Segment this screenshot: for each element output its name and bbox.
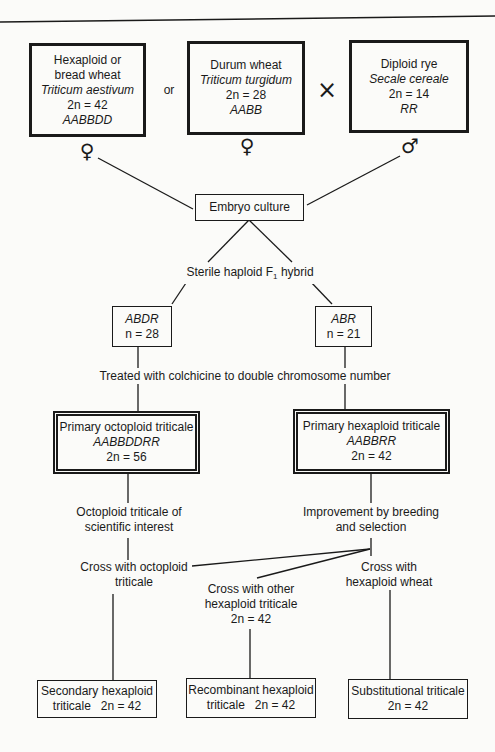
cross-wheat-line2: hexaploid wheat <box>335 575 443 590</box>
cross-octoploid-line1: Cross with octoploid <box>75 560 193 575</box>
female-symbol-icon: ♀ <box>237 135 257 157</box>
octoploid-interest-line2: scientific interest <box>68 520 190 535</box>
haploid-box-abr: ABR n = 21 <box>315 306 372 347</box>
recombinant-line1: Recombinant hexaploid <box>188 683 313 698</box>
secondary-line1: Secondary hexaploid <box>41 684 153 699</box>
parent-box-hexaploid-wheat: Hexaploid or bread wheat Triticum aestiv… <box>29 43 146 137</box>
cross-other-line2: hexaploid triticale <box>195 597 307 612</box>
parent-box-durum-wheat: Durum wheat Triticum turgidum 2n = 28 AA… <box>187 41 305 135</box>
embryo-culture-box: Embryo culture <box>195 194 304 221</box>
octoploid-genome: AABBDDRR <box>93 435 160 450</box>
durum-name: Durum wheat <box>210 58 281 73</box>
secondary-hexaploid-box: Secondary hexaploid triticale 2n = 42 <box>37 680 157 718</box>
cross-other-line1: Cross with other <box>195 582 307 597</box>
hexaploid-chromosomes: 2n = 42 <box>67 98 107 113</box>
abdr-genome: ABDR <box>125 312 158 327</box>
cross-hexaploid-wheat-label: Cross with hexaploid wheat <box>335 560 443 590</box>
f1-suffix: hybrid <box>278 265 314 279</box>
octoploid-interest-line1: Octoploid triticale of <box>68 505 190 520</box>
substitutional-triticale-box: Substitutional triticale 2n = 42 <box>348 679 468 719</box>
hexaploid-name-line1: Hexaploid or <box>54 53 121 68</box>
rye-genome: RR <box>400 102 417 117</box>
cross-other-hexaploid-label: Cross with other hexaploid triticale 2n … <box>195 582 307 627</box>
improvement-line2: and selection <box>300 520 442 535</box>
cross-wheat-line1: Cross with <box>335 560 443 575</box>
cross-octoploid-line2: triticale <box>75 575 193 590</box>
hexaploid-triticale-name: Primary hexaploid triticale <box>303 419 440 434</box>
haploid-box-abdr: ABDR n = 28 <box>112 306 172 347</box>
durum-chromosomes: 2n = 28 <box>226 88 266 103</box>
connector-hexaploid-to-embryo <box>98 158 193 209</box>
octoploid-interest-label: Octoploid triticale of scientific intere… <box>68 505 190 535</box>
colchicine-step-label: Treated with colchicine to double chromo… <box>95 369 395 384</box>
rye-chromosomes: 2n = 14 <box>389 87 429 102</box>
hexaploid-name-line2: bread wheat <box>54 68 120 83</box>
substitutional-line2: 2n = 42 <box>388 699 428 714</box>
durum-genome: AABB <box>230 103 262 118</box>
abr-genome: ABR <box>331 312 356 327</box>
durum-species: Triticum turgidum <box>200 73 292 88</box>
embryo-culture-label: Embryo culture <box>209 200 290 215</box>
secondary-line2: triticale 2n = 42 <box>53 699 141 714</box>
abdr-chromosomes: n = 28 <box>125 327 159 342</box>
connector-embryo-to-f1-left <box>208 220 249 262</box>
cross-other-line3: 2n = 42 <box>195 612 307 627</box>
primary-octoploid-box: Primary octoploid triticale AABBDDRR 2n … <box>53 411 200 474</box>
rye-name: Diploid rye <box>381 57 438 72</box>
recombinant-line2: triticale 2n = 42 <box>207 698 295 713</box>
improvement-label: Improvement by breeding and selection <box>300 505 442 535</box>
recombinant-hexaploid-box: Recombinant hexaploid triticale 2n = 42 <box>186 678 316 718</box>
octoploid-name: Primary octoploid triticale <box>59 420 193 435</box>
rye-species: Secale cereale <box>369 72 448 87</box>
cross-symbol-icon: × <box>316 79 338 101</box>
improvement-line1: Improvement by breeding <box>300 505 442 520</box>
male-symbol-icon: ♂ <box>399 135 421 157</box>
primary-hexaploid-box: Primary hexaploid triticale AABBRR 2n = … <box>293 409 450 474</box>
parent-box-diploid-rye: Diploid rye Secale cereale 2n = 14 RR <box>349 40 469 133</box>
abr-chromosomes: n = 21 <box>327 327 361 342</box>
hexaploid-genome: AABBDD <box>63 113 112 128</box>
or-label: or <box>159 83 179 98</box>
hexaploid-species: Triticum aestivum <box>41 83 134 98</box>
hexaploid-triticale-chromosomes: 2n = 42 <box>351 449 391 464</box>
connector-embryo-to-f1-right <box>249 220 292 262</box>
hexaploid-triticale-genome: AABBRR <box>347 434 396 449</box>
f1-prefix: Sterile haploid F <box>186 265 273 279</box>
cross-octoploid-label: Cross with octoploid triticale <box>75 560 193 590</box>
top-rule <box>0 16 495 22</box>
f1-hybrid-label: Sterile haploid F1 hybrid <box>160 265 340 284</box>
substitutional-line1: Substitutional triticale <box>351 684 464 699</box>
octoploid-chromosomes: 2n = 56 <box>106 450 146 465</box>
female-symbol-icon: ♀ <box>77 140 97 162</box>
connector-rye-to-embryo <box>307 156 400 205</box>
